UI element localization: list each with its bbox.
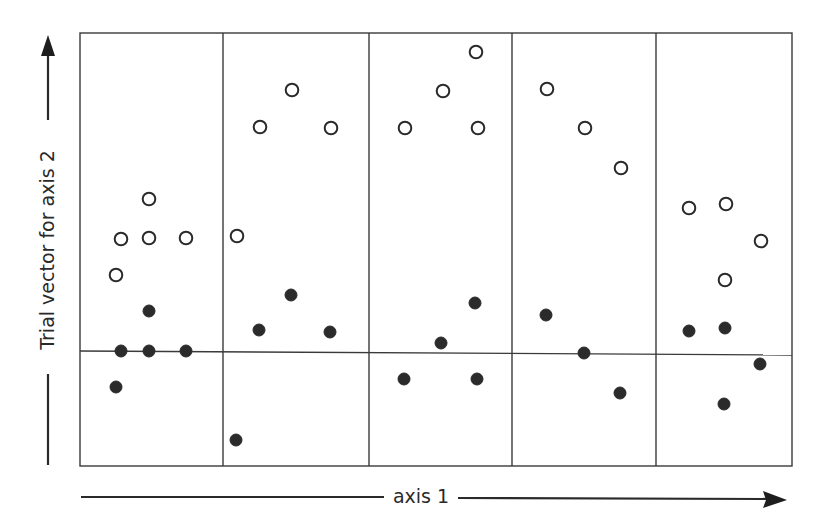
filled-point (285, 289, 297, 301)
x-axis-arrow-shaft-right (458, 498, 770, 499)
y-axis-label: Trial vector for axis 2 (36, 150, 58, 351)
open-point (325, 122, 338, 135)
panel-2 (230, 84, 337, 446)
filled-point (435, 337, 447, 349)
open-point (720, 198, 733, 211)
data-points (110, 46, 768, 446)
panel-3 (398, 46, 484, 385)
filled-point (614, 387, 626, 399)
filled-point (180, 345, 192, 357)
filled-point (143, 345, 155, 357)
panel-dividers (223, 33, 656, 466)
filled-point (253, 324, 265, 336)
filled-point (110, 381, 122, 393)
filled-point (469, 297, 481, 309)
panel-4 (540, 83, 627, 399)
open-point (254, 121, 267, 134)
panel-1 (110, 193, 193, 393)
open-point (115, 233, 128, 246)
filled-point (115, 345, 127, 357)
filled-point (683, 325, 695, 337)
x-axis: axis 1 (81, 485, 787, 508)
up-arrow-icon (41, 35, 55, 56)
open-point (286, 84, 299, 97)
open-point (437, 85, 450, 98)
open-point (143, 232, 156, 245)
filled-point (471, 373, 483, 385)
filled-point (143, 305, 155, 317)
trial-vector-diagram: Trial vector for axis 2 axis 1 (0, 0, 823, 531)
filled-point (324, 326, 336, 338)
right-arrow-icon (763, 491, 787, 508)
open-point (719, 274, 732, 287)
open-point (755, 235, 768, 248)
filled-point (230, 434, 242, 446)
open-point (472, 122, 485, 135)
plot-frame (80, 33, 792, 466)
open-point (231, 230, 244, 243)
frame-border (80, 33, 792, 466)
filled-point (578, 347, 590, 359)
open-point (399, 122, 412, 135)
filled-point (719, 322, 731, 334)
open-point (683, 202, 696, 215)
open-point (143, 193, 156, 206)
open-point (180, 232, 193, 245)
filled-point (718, 398, 730, 410)
y-axis: Trial vector for axis 2 (36, 35, 58, 465)
panel-5 (683, 198, 768, 410)
filled-point (754, 358, 766, 370)
open-point (470, 46, 483, 59)
filled-point (398, 373, 410, 385)
open-point (615, 162, 628, 175)
filled-point (540, 309, 552, 321)
open-point (579, 122, 592, 135)
x-axis-label: axis 1 (393, 485, 449, 507)
open-point (541, 83, 554, 96)
open-point (110, 269, 123, 282)
